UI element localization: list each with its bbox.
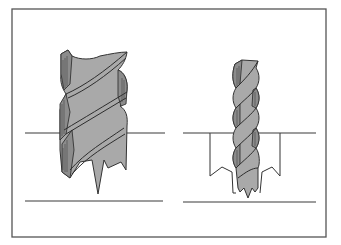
narrow-auger-bit-icon — [233, 60, 259, 198]
wide-auger-bit-icon — [60, 50, 127, 194]
right-panel — [183, 60, 316, 202]
drill-bit-comparison-figure — [0, 0, 341, 245]
left-panel — [25, 50, 165, 201]
figure-frame — [12, 9, 326, 237]
